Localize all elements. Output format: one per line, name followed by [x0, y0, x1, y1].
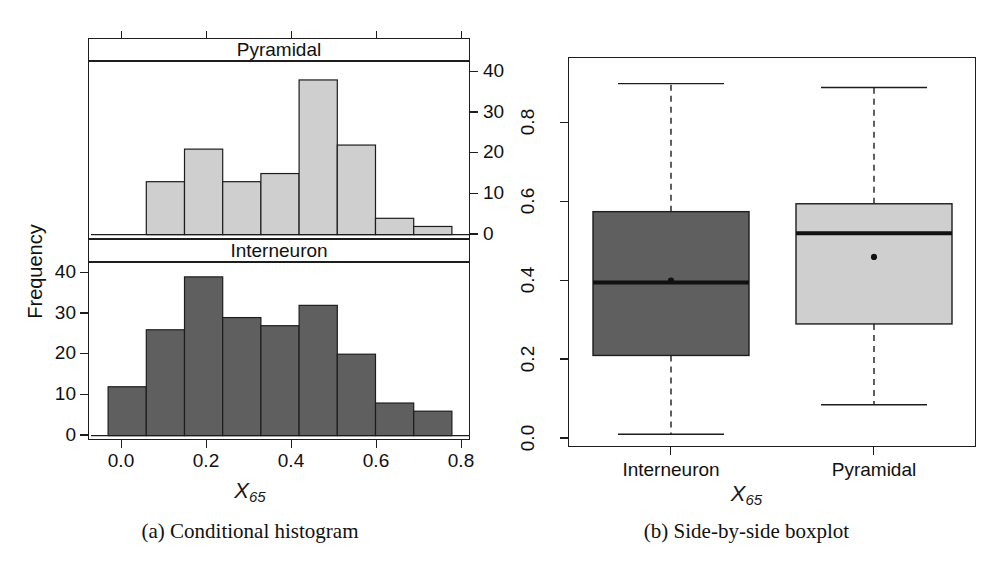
left-axis-tick — [80, 353, 88, 354]
x-axis-tick-label: 0.2 — [176, 450, 236, 472]
left-axis-tick-label: 20 — [44, 342, 76, 364]
right-axis-tick — [470, 193, 478, 194]
left-axis-tick-label: 40 — [44, 261, 76, 283]
boxplot-y-axis-tick-label: 0.2 — [517, 337, 539, 382]
strip-label-pyramidal: Pyramidal — [237, 39, 321, 61]
boxplot-category-label-pyramidal: Pyramidal — [798, 459, 950, 481]
top-axis-tick — [376, 31, 377, 38]
subfigure-a-conditional-histogram: Frequency Pyramidal 40 30 20 10 0 Inter — [0, 0, 500, 569]
boxplot-x-axis-label: X65 — [500, 481, 993, 508]
boxplot-y-axis-tick-label: 0.8 — [517, 100, 539, 145]
boxplot-y-axis-tick-label: 0.4 — [517, 258, 539, 303]
top-axis-tick — [206, 31, 207, 38]
x-axis-tick — [461, 440, 462, 448]
right-axis-tick — [470, 111, 478, 112]
boxplot-y-axis-tick — [560, 122, 568, 123]
subfigure-b-side-by-side-boxplot: 0.0 0.2 0.4 0.6 0.8 Interneuron Pyramida… — [500, 0, 993, 569]
caption-subfigure-a: (a) Conditional histogram — [0, 519, 500, 544]
boxplot-y-axis-tick-label: 0.6 — [517, 179, 539, 224]
x-axis-tick-label: 0.4 — [261, 450, 321, 472]
strip-panel-pyramidal: Pyramidal — [88, 38, 470, 61]
histogram-x-axis-label: X65 — [0, 478, 500, 505]
boxplot-category-label-interneuron: Interneuron — [595, 459, 747, 481]
right-axis-tick — [470, 152, 478, 153]
histogram-x-axis-label-base: X — [234, 478, 249, 503]
left-axis-tick-label: 0 — [44, 424, 76, 446]
x-axis-tick — [291, 440, 292, 448]
x-axis-tick-label: 0.0 — [91, 450, 151, 472]
boxplot-y-axis-tick — [560, 358, 568, 359]
interneuron-bars — [89, 263, 471, 441]
left-axis-tick-label: 10 — [44, 383, 76, 405]
left-axis-tick — [80, 272, 88, 273]
boxplot-x-axis-tick — [670, 447, 671, 455]
strip-panel-interneuron: Interneuron — [88, 239, 470, 262]
x-axis-tick — [376, 440, 377, 448]
boxplot-y-axis-tick — [560, 280, 568, 281]
top-axis-tick — [461, 31, 462, 38]
boxplot-plot-area — [568, 57, 976, 447]
left-axis-tick-label: 30 — [44, 302, 76, 324]
right-axis-tick — [470, 233, 478, 234]
left-axis-tick — [80, 312, 88, 313]
top-axis-tick — [291, 31, 292, 38]
histogram-panel-interneuron — [88, 262, 470, 440]
histogram-panel-pyramidal — [88, 61, 470, 239]
left-axis-tick — [80, 434, 88, 435]
x-axis-tick — [121, 440, 122, 448]
right-axis-tick-label: 0 — [483, 223, 494, 245]
x-axis-tick-label: 0.6 — [346, 450, 406, 472]
pyramidal-bars — [89, 62, 471, 240]
figure-root: Frequency Pyramidal 40 30 20 10 0 Inter — [0, 0, 993, 569]
strip-label-interneuron: Interneuron — [230, 240, 327, 262]
right-axis-tick — [470, 71, 478, 72]
boxplot-x-axis-tick — [873, 447, 874, 455]
boxplot-x-axis-label-base: X — [731, 481, 746, 506]
caption-subfigure-b: (b) Side-by-side boxplot — [500, 519, 993, 544]
left-axis-tick — [80, 394, 88, 395]
boxplot-graphics — [569, 58, 977, 448]
x-axis-tick — [206, 440, 207, 448]
x-axis-tick-label: 0.8 — [431, 450, 491, 472]
boxplot-y-axis-tick — [560, 201, 568, 202]
histogram-x-axis-label-subscript: 65 — [249, 488, 266, 505]
top-axis-tick — [121, 31, 122, 38]
boxplot-x-axis-label-subscript: 65 — [746, 491, 763, 508]
boxplot-y-axis-tick-label: 0.0 — [517, 416, 539, 461]
boxplot-y-axis-tick — [560, 437, 568, 438]
